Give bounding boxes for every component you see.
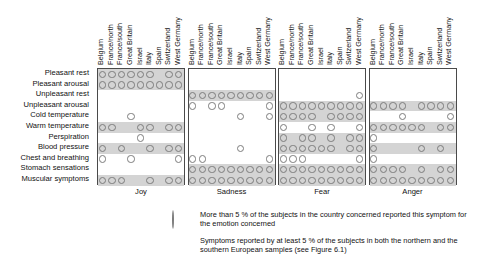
symptom-marker (199, 177, 206, 184)
panel-title: Anger (369, 187, 457, 196)
symptom-marker (346, 145, 353, 152)
symptom-marker (146, 71, 153, 78)
symptom-marker (266, 102, 273, 109)
country-header: France/south (387, 23, 396, 65)
symptom-marker (227, 166, 234, 173)
symptom-marker (399, 102, 406, 109)
country-header: Belgium (277, 39, 286, 65)
country-header: France/south (296, 23, 305, 65)
symptom-marker (327, 102, 334, 109)
country-header: West Germany (354, 17, 363, 65)
symptom-marker (127, 81, 134, 88)
country-header: France/south (206, 23, 215, 65)
symptom-marker (380, 102, 387, 109)
symptom-marker (208, 102, 215, 109)
symptom-marker (370, 134, 377, 141)
country-header: France/south (115, 23, 124, 65)
symptom-marker (108, 71, 115, 78)
symptom-marker (327, 177, 334, 184)
symptom-marker (399, 124, 406, 131)
symptom-marker (280, 124, 287, 131)
country-header: Great Britain (396, 25, 405, 65)
symptom-marker (308, 134, 315, 141)
country-header: Great Britain (306, 25, 315, 65)
figure-root: Pleasant restPleasant arousalUnpleasant … (0, 0, 479, 268)
symptom-marker (146, 145, 153, 152)
symptom-marker (165, 145, 172, 152)
panel-joy: Joy (97, 68, 185, 185)
symptom-marker (289, 145, 296, 152)
symptom-marker (289, 177, 296, 184)
country-header: Spain (244, 47, 253, 65)
symptom-marker (308, 145, 315, 152)
legend-row-swatch: Symptoms reported by at least 5 % of the… (172, 236, 472, 255)
legend-swatch-text: Symptoms reported by at least 5 % of the… (200, 236, 472, 255)
symptom-marker (389, 177, 396, 184)
symptom-marker (389, 124, 396, 131)
symptom-marker (175, 81, 182, 88)
symptom-marker (208, 92, 215, 99)
country-column-headers: BelgiumFrance/northFrance/southGreat Bri… (278, 0, 366, 66)
symptom-label: Unpleasant rest (0, 89, 92, 100)
symptom-label: Unpleasant arousal (0, 100, 92, 111)
symptom-label: Perspiration (0, 132, 92, 143)
panel-fear: Fear (278, 68, 366, 185)
symptom-marker (218, 102, 225, 109)
country-header: Switzerland (254, 28, 263, 65)
symptom-marker (427, 177, 434, 184)
country-header: Switzerland (435, 28, 444, 65)
symptom-marker (418, 102, 425, 109)
symptom-marker (99, 155, 106, 162)
symptom-marker (289, 166, 296, 173)
symptom-marker (427, 102, 434, 109)
symptom-marker (318, 102, 325, 109)
symptom-label: Pleasant arousal (0, 79, 92, 90)
symptom-marker (299, 134, 306, 141)
symptom-marker (118, 81, 125, 88)
symptom-marker (99, 124, 106, 131)
country-header: Spain (425, 47, 434, 65)
symptom-marker (356, 134, 363, 141)
symptom-marker (199, 155, 206, 162)
country-header: France/north (196, 24, 205, 65)
symptom-marker (146, 124, 153, 131)
symptom-marker (308, 113, 315, 120)
country-header: Italy (325, 52, 334, 65)
symptom-marker (266, 177, 273, 184)
symptom-marker (266, 92, 273, 99)
country-header: Italy (416, 52, 425, 65)
country-header: Switzerland (163, 28, 172, 65)
symptom-marker (165, 124, 172, 131)
panel-title: Joy (97, 187, 185, 196)
symptom-marker (218, 177, 225, 184)
country-header: Belgium (187, 39, 196, 65)
country-header: France/north (377, 24, 386, 65)
country-header: Israel (135, 47, 144, 65)
symptom-marker (389, 166, 396, 173)
symptom-marker (447, 102, 454, 109)
symptom-marker (308, 102, 315, 109)
symptom-marker (327, 124, 334, 131)
country-header: Israel (225, 47, 234, 65)
symptom-marker (246, 177, 253, 184)
symptom-marker (108, 177, 115, 184)
country-header: Belgium (368, 39, 377, 65)
country-header: Great Britain (125, 25, 134, 65)
symptom-label: Warm temperature (0, 121, 92, 132)
symptom-marker (380, 124, 387, 131)
country-header: France/north (106, 24, 115, 65)
symptom-marker (146, 177, 153, 184)
panel-anger: Anger (369, 68, 457, 185)
symptom-marker (308, 124, 315, 131)
panel-sadness: Sadness (188, 68, 276, 185)
symptom-marker (165, 177, 172, 184)
symptom-marker (289, 102, 296, 109)
symptom-label: Muscular symptoms (0, 174, 92, 185)
symptom-marker (327, 134, 334, 141)
symptom-marker (299, 155, 306, 162)
legend-circle-text: More than 5 % of the subjects in the cou… (200, 210, 472, 229)
country-column-headers: BelgiumFrance/northFrance/southGreat Bri… (97, 0, 185, 66)
country-header: Spain (335, 47, 344, 65)
symptom-marker (308, 177, 315, 184)
country-header: West Germany (444, 17, 453, 65)
